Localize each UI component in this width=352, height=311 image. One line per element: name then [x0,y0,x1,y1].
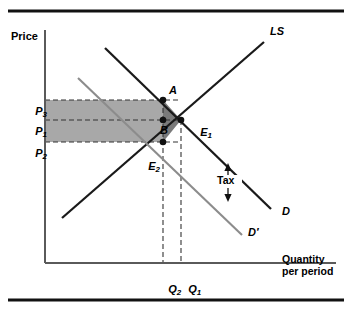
quantity-tick-q1-sub: 1 [197,288,201,297]
point-b-marker [160,117,167,124]
point-label-e1-base: E [200,126,207,138]
point-e1-marker [178,117,185,124]
point-e2-marker [160,139,167,146]
curve-label-d: D [282,205,290,217]
x-axis-title-line2: per period [282,266,333,278]
point-label-e1: E1 [188,114,212,152]
figure-canvas: Price Quantity per period P3 P1 P2 Q2 Q1… [0,0,352,311]
y-axis-title: Price [11,30,38,42]
price-tick-p2-sub: 2 [43,152,47,161]
tax-arrow-head-down [224,194,231,202]
point-label-a: A [169,84,177,96]
curve-label-d-prime: D′ [248,226,259,238]
quantity-tick-q1-base: Q [188,283,197,295]
point-label-b: B [160,124,168,136]
curve-label-ls: LS [270,25,284,37]
point-label-e2: E2 [136,148,160,186]
point-label-e1-sub: 1 [208,131,212,140]
point-label-e2-base: E [148,160,155,172]
tax-gap-label: Tax [217,175,234,187]
point-label-e2-sub: 2 [156,165,160,174]
tax-revenue-rectangle [45,100,163,142]
x-axis-title-line1: Quantity [282,254,325,266]
point-a-marker [160,97,167,104]
price-tick-p2: P2 [23,135,47,173]
quantity-tick-q1: Q1 [176,271,201,309]
price-tick-p2-base: P [35,147,42,159]
